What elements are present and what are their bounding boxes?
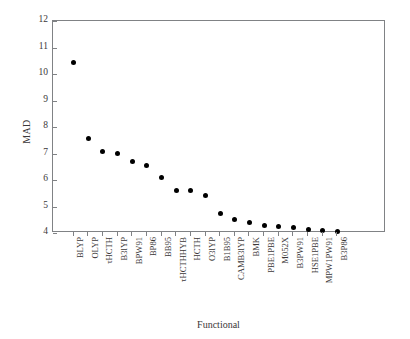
x-axis-tick-label: τHCTHHYB bbox=[179, 237, 188, 282]
y-axis-tick-label: 7 bbox=[12, 148, 48, 158]
y-axis-tick-mark bbox=[53, 207, 57, 208]
x-axis-tick-mark bbox=[190, 232, 191, 236]
x-axis-tick-label: B3lYP bbox=[120, 237, 129, 260]
x-axis-tick-label: HCTH bbox=[193, 237, 202, 260]
data-point bbox=[159, 175, 164, 180]
y-axis-tick-mark bbox=[53, 74, 57, 75]
data-point bbox=[115, 151, 120, 156]
data-point bbox=[144, 163, 149, 168]
x-axis-tick-label: CAMB3lYP bbox=[237, 237, 246, 280]
x-axis-tick-mark bbox=[146, 232, 147, 236]
x-axis-tick-mark bbox=[307, 232, 308, 236]
x-axis-tick-mark bbox=[175, 232, 176, 236]
data-point bbox=[130, 159, 135, 164]
x-axis-tick-mark bbox=[234, 232, 235, 236]
x-axis-tick-mark bbox=[73, 232, 74, 236]
y-axis-tick-label: 12 bbox=[12, 15, 48, 25]
x-axis-tick-mark bbox=[336, 232, 337, 236]
data-point bbox=[232, 217, 237, 222]
y-axis-tick-labels: 456789101112 bbox=[8, 0, 48, 339]
data-point bbox=[262, 223, 267, 228]
x-axis-tick-label: BB95 bbox=[164, 237, 173, 257]
y-axis-tick-label: 8 bbox=[12, 121, 48, 131]
x-axis-tick-label: BLYP bbox=[76, 237, 85, 258]
plot-area bbox=[52, 20, 385, 232]
x-axis-tick-label: PBE1PBE bbox=[267, 237, 276, 273]
x-axis-tick-mark bbox=[248, 232, 249, 236]
y-axis-tick-label: 5 bbox=[12, 201, 48, 211]
y-axis-tick-mark bbox=[53, 48, 57, 49]
x-axis-tick-label: BPW91 bbox=[135, 237, 144, 264]
x-axis-tick-mark bbox=[263, 232, 264, 236]
x-axis-tick-label: MPW1PW91 bbox=[325, 237, 334, 283]
data-point bbox=[71, 60, 76, 65]
x-axis-tick-mark bbox=[322, 232, 323, 236]
x-axis-tick-label: B3PW91 bbox=[296, 237, 305, 269]
x-axis-tick-mark bbox=[102, 232, 103, 236]
data-point bbox=[247, 220, 252, 225]
x-axis-tick-mark bbox=[131, 232, 132, 236]
data-point bbox=[188, 188, 193, 193]
y-axis-tick-mark bbox=[53, 180, 57, 181]
data-point bbox=[306, 227, 311, 232]
y-axis-tick-label: 9 bbox=[12, 95, 48, 105]
x-axis-tick-mark bbox=[161, 232, 162, 236]
y-axis-tick-label: 6 bbox=[12, 174, 48, 184]
data-point bbox=[276, 224, 281, 229]
x-axis-tick-label: M052X bbox=[281, 237, 290, 264]
x-axis-tick-mark bbox=[292, 232, 293, 236]
y-axis-tick-label: 10 bbox=[12, 68, 48, 78]
x-axis-tick-label: BMK bbox=[252, 237, 261, 257]
x-axis-tick-label: O3lYP bbox=[208, 237, 217, 261]
data-point bbox=[86, 136, 91, 141]
chart-figure: MAD 456789101112 BLYPOLYPτHCTHB3lYPBPW91… bbox=[0, 0, 410, 339]
x-axis-tick-labels: BLYPOLYPτHCTHB3lYPBPW91BP86BB95τHCTHHYBH… bbox=[52, 237, 385, 317]
y-axis-tick-label: 4 bbox=[12, 227, 48, 237]
scatter-series bbox=[53, 21, 384, 231]
x-axis-tick-mark bbox=[205, 232, 206, 236]
x-axis-tick-label: B1B95 bbox=[223, 237, 232, 261]
x-axis-tick-label: HSE1PBE bbox=[311, 237, 320, 273]
x-axis-title: Functional bbox=[52, 319, 385, 330]
x-axis-tick-mark bbox=[87, 232, 88, 236]
x-axis-tick-mark bbox=[278, 232, 279, 236]
y-axis-tick-mark bbox=[53, 21, 57, 22]
data-point bbox=[174, 188, 179, 193]
x-axis-tick-label: BP86 bbox=[149, 237, 158, 256]
data-point bbox=[100, 149, 105, 154]
y-axis-tick-mark bbox=[53, 127, 57, 128]
data-point bbox=[218, 211, 223, 216]
x-axis-tick-mark bbox=[219, 232, 220, 236]
x-axis-tick-label: τHCTH bbox=[105, 237, 114, 264]
data-point bbox=[291, 225, 296, 230]
data-point bbox=[203, 193, 208, 198]
x-axis-tick-label: B3P86 bbox=[340, 237, 349, 260]
x-axis-tick-label: OLYP bbox=[91, 237, 100, 259]
x-axis-tick-mark bbox=[117, 232, 118, 236]
y-axis-tick-mark bbox=[53, 154, 57, 155]
y-axis-tick-label: 11 bbox=[12, 42, 48, 52]
y-axis-tick-mark bbox=[53, 101, 57, 102]
